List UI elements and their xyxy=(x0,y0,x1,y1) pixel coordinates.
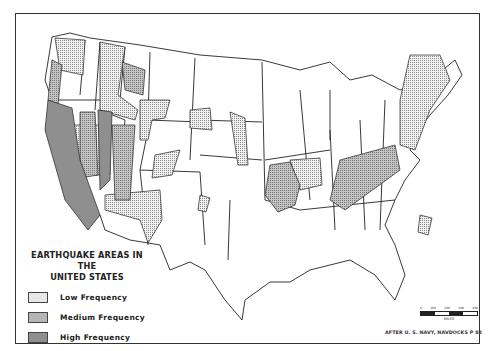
source-credit: AFTER U. S. NAVY, NAVDOCKS P 88 xyxy=(385,330,482,335)
high-frequency-swatch-icon xyxy=(28,332,48,343)
legend-item-low: Low Frequency xyxy=(28,292,152,303)
legend-item-high: High Frequency xyxy=(28,332,152,343)
legend-title-line1: EARTHQUAKE AREAS IN THE xyxy=(22,250,152,272)
scale-bar: 0 100 200 300 400 MILES xyxy=(420,306,478,321)
scale-tick: 0 xyxy=(420,306,422,310)
map-legend: EARTHQUAKE AREAS IN THE UNITED STATES Lo… xyxy=(22,250,152,343)
legend-label: Medium Frequency xyxy=(60,313,145,322)
scale-tick: 400 xyxy=(472,306,478,310)
legend-label: Low Frequency xyxy=(60,293,127,302)
scale-tick: 200 xyxy=(444,306,450,310)
scale-bar-graphic xyxy=(420,311,478,316)
legend-label: High Frequency xyxy=(60,333,130,342)
legend-item-medium: Medium Frequency xyxy=(28,312,152,323)
scale-unit: MILES xyxy=(420,317,478,321)
legend-title-line2: UNITED STATES xyxy=(22,272,152,283)
low-frequency-swatch-icon xyxy=(28,292,48,303)
medium-frequency-swatch-icon xyxy=(28,312,48,323)
scale-tick: 100 xyxy=(430,306,436,310)
scale-tick: 300 xyxy=(458,306,464,310)
